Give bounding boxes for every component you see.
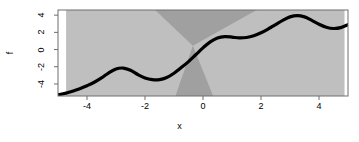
x-tick-label: -2 [141,101,149,111]
y-axis-title: f [5,33,15,73]
y-tick-label: -4 [36,75,46,93]
x-axis-title: x [0,121,359,131]
x-tick-label: -4 [83,101,91,111]
y-tick-label: 0 [36,41,46,59]
plot-region [58,10,348,96]
x-tick-label: 0 [200,101,205,111]
x-tick-label: 4 [316,101,321,111]
x-tick-label: 2 [258,101,263,111]
y-tick-label: 2 [36,23,46,41]
y-tick-label: -2 [36,58,46,76]
y-tick-label: 4 [36,6,46,24]
